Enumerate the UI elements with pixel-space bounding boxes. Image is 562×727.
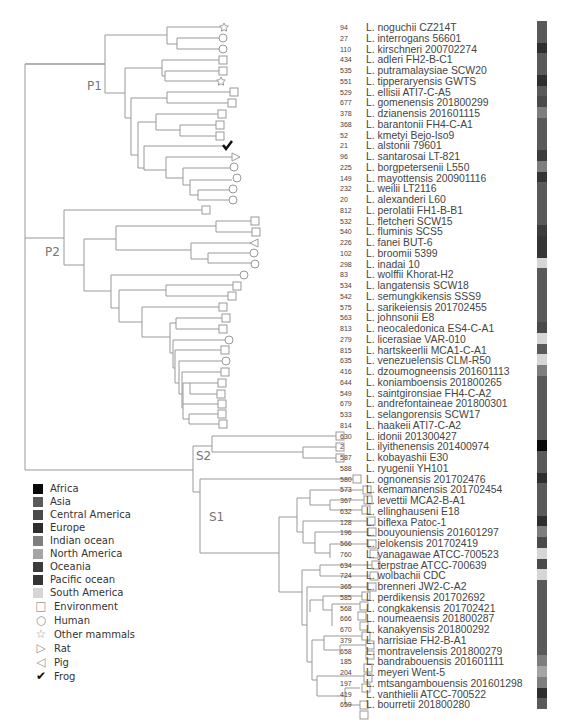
taxon-count: 368 <box>340 119 364 130</box>
region-cell <box>537 344 547 355</box>
region-cell <box>537 526 547 537</box>
taxon-name: L. noguchii CZ214T <box>366 22 457 33</box>
taxon-count: 568 <box>340 603 364 614</box>
taxon-count: 94 <box>340 22 364 33</box>
region-cell <box>537 86 547 97</box>
taxon-count: 632 <box>340 506 364 517</box>
region-cell <box>537 516 547 527</box>
region-cell <box>537 118 547 129</box>
taxon-count: 20 <box>340 194 364 205</box>
taxon-count: 110 <box>340 44 364 55</box>
taxon-name: L. kobayashii E30 <box>366 452 448 463</box>
host-legend: □Environment○Human☆Other mammals▷Rat◁Pig… <box>33 599 173 683</box>
taxon-name: L. johnsonii E8 <box>366 312 434 323</box>
square-icon <box>202 206 210 214</box>
taxon-count: 588 <box>340 463 364 474</box>
taxon-name: L. biflexa Patoc-1 <box>366 517 446 528</box>
color-swatch <box>33 484 43 494</box>
taxon-count: 666 <box>340 613 364 624</box>
region-cell <box>537 322 547 333</box>
region-cell <box>537 225 547 236</box>
taxon-name: L. kirschneri 200702274 <box>366 44 477 55</box>
region-cell <box>537 311 547 322</box>
taxon-count: 21 <box>340 140 364 151</box>
region-cell <box>537 193 547 204</box>
region-cell <box>537 408 547 419</box>
region-cell <box>537 258 547 269</box>
taxon-name: L. kemamanensis 201702454 <box>366 484 502 495</box>
taxon-count: 814 <box>340 420 364 431</box>
region-cell <box>537 129 547 140</box>
taxon-count: 585 <box>340 592 364 603</box>
taxon-count: 573 <box>340 484 364 495</box>
circle-icon <box>222 357 230 365</box>
taxon-count: 83 <box>340 269 364 280</box>
legend-region-item: Europe <box>33 521 173 534</box>
circle-icon <box>233 174 241 182</box>
color-swatch <box>33 497 43 507</box>
legend-host-item: ▷Rat <box>33 641 173 655</box>
taxon-count: 813 <box>340 323 364 334</box>
taxon-count: 367 <box>340 495 364 506</box>
region-cell <box>537 387 547 398</box>
square-icon <box>251 217 259 225</box>
taxon-count: 533 <box>340 409 364 420</box>
color-swatch <box>33 549 43 559</box>
triangle-left-icon: ◁ <box>33 655 49 669</box>
legend-label: Pacific ocean <box>50 574 115 585</box>
square-icon <box>233 282 241 290</box>
region-cell <box>537 75 547 86</box>
clade-label-p2: P2 <box>45 245 60 259</box>
taxon-name: L. perdikensis 201702692 <box>366 592 485 603</box>
taxon-name: L. congkakensis 201702421 <box>366 603 495 614</box>
circle-icon <box>219 45 227 53</box>
square-icon <box>228 99 236 107</box>
taxon-name: L. adleri FH2-B-C1 <box>366 54 453 65</box>
taxon-count: 52 <box>340 130 364 141</box>
taxon-count: 542 <box>340 291 364 302</box>
legend-label: Indian ocean <box>50 535 114 546</box>
taxon-count: 532 <box>340 216 364 227</box>
legend-host-item: □Environment <box>33 599 173 613</box>
taxon-name: L. barantonii FH4-C-A1 <box>366 119 473 130</box>
region-cell <box>537 139 547 150</box>
region-cell <box>537 645 547 656</box>
region-cell <box>537 268 547 279</box>
region-cell <box>537 419 547 430</box>
taxon-name: L. perolatii FH1-B-B1 <box>366 205 463 216</box>
taxon-count: 644 <box>340 377 364 388</box>
taxon-name: L. gomenensis 201800299 <box>366 97 488 108</box>
taxon-count: 529 <box>340 87 364 98</box>
legend-label: Other mammals <box>54 629 135 640</box>
taxon-name: L. neocaledonica ES4-C-A1 <box>366 323 494 334</box>
taxon-count: 658 <box>340 646 364 657</box>
legend-region-item: Africa <box>33 482 173 495</box>
region-cell <box>537 688 547 699</box>
taxon-name: L. ilyithenensis 201400974 <box>366 441 489 452</box>
taxon-name: L. yanagawae ATCC-700523 <box>366 549 499 560</box>
taxon-count: 379 <box>340 635 364 646</box>
legend-label: Europe <box>50 522 85 533</box>
region-cell <box>537 677 547 688</box>
legend-label: Asia <box>50 496 71 507</box>
region-cell <box>537 591 547 602</box>
taxon-name: L. haakeii ATI7-C-A2 <box>366 420 461 431</box>
legend-host-item: ○Human <box>33 613 173 627</box>
taxon-name: L. terpstrae ATCC-700639 <box>366 560 487 571</box>
legend-region-item: Pacific ocean <box>33 573 173 586</box>
taxon-name: L. jelokensis 201702419 <box>366 538 478 549</box>
color-swatch <box>33 588 43 598</box>
taxon-count: 197 <box>340 678 364 689</box>
legend-region-item: South America <box>33 586 173 599</box>
square-icon <box>218 410 226 418</box>
taxon-name: L. wolffii Khorat-H2 <box>366 269 454 280</box>
circle-icon <box>229 185 237 193</box>
taxon-name: L. venezuelensis CLM-R50 <box>366 355 491 366</box>
taxon-count: 635 <box>340 355 364 366</box>
region-cell <box>537 215 547 226</box>
taxon-name: L. idonii 201300427 <box>366 431 457 442</box>
region-cell <box>537 32 547 43</box>
square-icon <box>219 67 227 75</box>
circle-icon <box>225 336 233 344</box>
taxon-name: L. broomii 5399 <box>366 248 438 259</box>
